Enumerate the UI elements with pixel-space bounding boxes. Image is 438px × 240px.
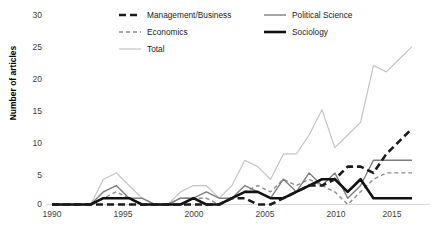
series-line-management-business [52, 129, 412, 205]
chart-container: Number of articles 30 25 20 15 10 5 0 19… [0, 0, 438, 240]
plot-area [0, 0, 438, 240]
series-line-sociology [52, 179, 412, 204]
series-lines [52, 47, 412, 205]
